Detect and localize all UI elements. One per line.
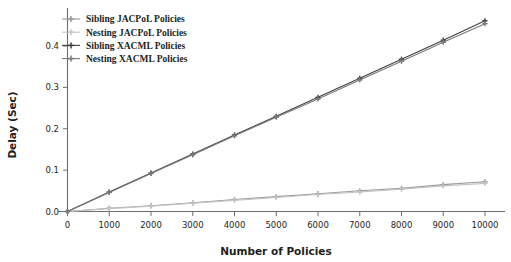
x-tick-label: 8000 [391,220,413,230]
data-point-marker [65,209,70,214]
data-point-marker [274,195,279,200]
x-tick-label: 0 [65,220,70,230]
y-axis-ticks: 0.00.10.20.30.4 [45,41,67,217]
y-tick-label: 0.3 [45,82,59,92]
line-chart: 0.00.10.20.30.4 010002000300040005000600… [0,0,511,262]
data-point-marker [315,192,320,197]
y-tick-label: 0.0 [45,207,59,217]
x-tick-label: 4000 [224,220,246,230]
data-point-marker [190,201,195,206]
x-tick-label: 5000 [265,220,287,230]
chart-legend: Sibling JACPoL PoliciesNesting JACPoL Po… [62,14,188,64]
legend-label: Nesting XACML Policies [86,54,188,64]
x-tick-label: 10000 [471,220,498,230]
x-axis-ticks: 0100020003000400050006000700080009000100… [65,212,499,231]
legend-label: Sibling JACPoL Policies [86,14,185,24]
axis-group [58,8,505,212]
data-point-marker [107,206,112,211]
legend-label: Sibling XACML Policies [86,41,186,51]
legend-item-3[interactable]: Sibling XACML Policies [62,41,186,51]
y-tick-label: 0.1 [45,165,59,175]
y-axis-title: Delay (Sec) [6,91,18,158]
x-tick-label: 9000 [432,220,454,230]
x-tick-label: 1000 [98,220,120,230]
x-tick-label: 6000 [307,220,329,230]
x-axis-title: Number of Policies [220,245,331,257]
legend-item-1[interactable]: Sibling JACPoL Policies [62,14,185,24]
y-tick-label: 0.2 [45,124,59,134]
legend-item-4[interactable]: Nesting XACML Policies [62,54,188,64]
data-point-marker [232,198,237,203]
data-point-marker [399,187,404,192]
x-tick-label: 3000 [182,220,204,230]
legend-label: Nesting JACPoL Policies [86,28,187,38]
y-tick-label: 0.4 [45,41,59,51]
x-tick-label: 2000 [140,220,162,230]
x-tick-label: 7000 [349,220,371,230]
data-point-marker [148,204,153,209]
legend-item-2[interactable]: Nesting JACPoL Policies [62,28,187,38]
chart-figure: 0.00.10.20.30.4 010002000300040005000600… [0,0,511,262]
